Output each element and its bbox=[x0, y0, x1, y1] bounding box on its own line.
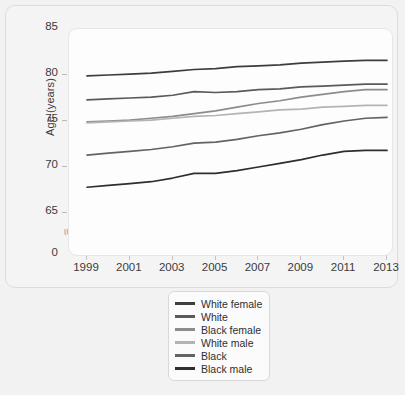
x-tick-label: 2013 bbox=[366, 261, 405, 273]
legend-item-label: White male bbox=[201, 337, 254, 349]
line-chart-svg bbox=[69, 29, 394, 257]
legend-swatch-icon bbox=[175, 302, 195, 305]
y-tick-label: 75 bbox=[28, 112, 58, 124]
x-tick-label: 2009 bbox=[280, 261, 320, 273]
y-tick-mark bbox=[62, 166, 67, 167]
legend-item-black-male[interactable]: Black male bbox=[175, 362, 262, 375]
chart-legend: White femaleWhiteBlack femaleWhite maleB… bbox=[168, 291, 270, 381]
x-tick-label: 1999 bbox=[66, 261, 106, 273]
legend-item-label: White female bbox=[201, 298, 262, 310]
x-tick-label: 2003 bbox=[152, 261, 192, 273]
plot-panel bbox=[68, 28, 393, 256]
legend-swatch-icon bbox=[175, 328, 195, 331]
y-tick-mark bbox=[62, 120, 67, 121]
x-tick-label: 2007 bbox=[237, 261, 277, 273]
legend-item-white-male[interactable]: White male bbox=[175, 336, 262, 349]
legend-item-label: Black male bbox=[201, 363, 252, 375]
y-tick-label: 70 bbox=[28, 158, 58, 170]
y-tick-mark bbox=[62, 212, 67, 213]
chart-card: Age (years) 85807570650 1999200120032005… bbox=[5, 5, 398, 288]
series-line-black-male bbox=[87, 150, 387, 187]
x-tick-label: 2001 bbox=[109, 261, 149, 273]
legend-swatch-icon bbox=[175, 315, 195, 318]
legend-item-white[interactable]: White bbox=[175, 310, 262, 323]
x-tick-label: 2011 bbox=[323, 261, 363, 273]
legend-swatch-icon bbox=[175, 367, 195, 370]
series-line-white-female bbox=[87, 60, 387, 76]
legend-swatch-icon bbox=[175, 354, 195, 357]
legend-swatch-icon bbox=[175, 341, 195, 344]
legend-item-label: White bbox=[201, 311, 228, 323]
series-line-black bbox=[87, 117, 387, 155]
y-tick-label: 85 bbox=[28, 20, 58, 32]
y-tick-label: 65 bbox=[28, 204, 58, 216]
legend-item-white-female[interactable]: White female bbox=[175, 297, 262, 310]
y-tick-label-zero: 0 bbox=[28, 246, 58, 258]
y-tick-mark bbox=[62, 74, 67, 75]
legend-item-black[interactable]: Black bbox=[175, 349, 262, 362]
legend-item-label: Black bbox=[201, 350, 227, 362]
legend-item-black-female[interactable]: Black female bbox=[175, 323, 262, 336]
x-tick-label: 2005 bbox=[195, 261, 235, 273]
y-tick-label: 80 bbox=[28, 66, 58, 78]
legend-item-label: Black female bbox=[201, 324, 261, 336]
